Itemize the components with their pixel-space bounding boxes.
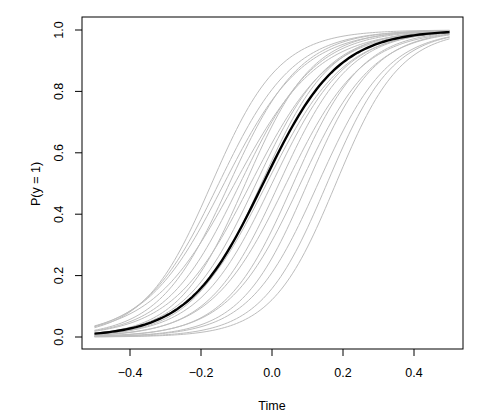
y-tick-label: 0.8 [52, 83, 66, 100]
x-tick-label: −0.2 [189, 366, 214, 380]
series-line [95, 31, 450, 331]
y-tick-label: 0.4 [52, 205, 66, 222]
x-tick-label: −0.4 [118, 366, 143, 380]
y-tick-label: 0.0 [52, 328, 66, 345]
series-line [95, 32, 450, 331]
y-axis-title: P(y = 1) [29, 162, 43, 206]
series-line [95, 31, 450, 326]
series-line [95, 32, 450, 327]
gray-curves [95, 30, 450, 337]
series-line [95, 31, 450, 331]
series-line [95, 30, 450, 327]
series-line [95, 35, 450, 336]
series-line [95, 37, 450, 337]
x-tick-label: 0.0 [263, 366, 280, 380]
y-tick-label: 0.6 [52, 144, 66, 161]
chart: −0.4−0.20.00.20.4 0.00.20.40.60.81.0 Tim… [0, 0, 479, 420]
x-axis: −0.4−0.20.00.20.4 [118, 349, 423, 380]
y-axis: 0.00.20.40.60.81.0 [52, 21, 82, 345]
series-line [95, 31, 450, 327]
x-tick-label: 0.2 [334, 366, 351, 380]
x-axis-title: Time [258, 399, 285, 413]
x-tick-label: 0.4 [405, 366, 422, 380]
series-line [95, 37, 450, 337]
series-line [95, 34, 450, 336]
series-line [95, 39, 450, 337]
y-tick-label: 0.2 [52, 267, 66, 284]
y-tick-label: 1.0 [52, 21, 66, 38]
